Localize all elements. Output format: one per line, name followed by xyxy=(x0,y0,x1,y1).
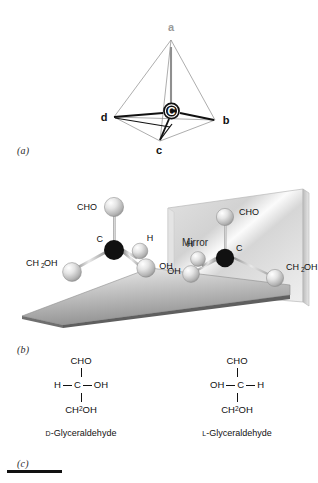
l-top-bond xyxy=(237,368,238,377)
sphere-cho xyxy=(104,197,123,216)
d-top-bond xyxy=(81,368,82,377)
fischer-l-glyceraldehyde: CHO OH C H CH2OH L-Glyceraldehyde xyxy=(181,354,293,438)
panel-a-tetrahedron: C a b c d (a) xyxy=(0,0,318,168)
l-bottom-tail: OH xyxy=(239,405,253,415)
bottom-rule xyxy=(7,470,62,473)
l-left-group: OH xyxy=(210,380,224,390)
mirror-sphere-carbon xyxy=(216,249,234,267)
chirality-figure: C a b c d (a) xyxy=(0,0,318,483)
d-center-atom: C xyxy=(74,380,81,390)
label-oh: OH xyxy=(159,261,173,271)
mirror-label-center: C xyxy=(236,243,243,253)
label-h: H xyxy=(147,233,154,243)
l-middle-row: OH C H xyxy=(181,378,293,392)
panel-label-c: (c) xyxy=(17,458,29,469)
d-bottom-main: CH xyxy=(65,405,79,415)
l-left-bond xyxy=(226,385,235,386)
l-bottom-main: CH xyxy=(221,405,235,415)
mirror-label-h: H xyxy=(187,239,194,249)
sphere-oh xyxy=(137,259,155,277)
mirror-label-cho: CHO xyxy=(239,207,259,217)
d-bottom-tail: OH xyxy=(83,405,97,415)
l-bottom-bond xyxy=(237,393,238,402)
vertex-label-c: c xyxy=(156,144,162,156)
l-center-atom: C xyxy=(237,380,244,390)
l-name: -Glyceraldehyde xyxy=(206,428,272,438)
fischer-d-glyceraldehyde: CHO H C OH CH2OH D-Glyceraldehyde xyxy=(25,354,137,438)
tetrahedron-diagram: C a b c d xyxy=(0,0,318,168)
d-name: -Glyceraldehyde xyxy=(51,428,117,438)
l-right-bond xyxy=(246,385,255,386)
bond-center-to-d xyxy=(114,113,163,117)
l-bottom-group: CH2OH xyxy=(181,403,293,416)
mirror-scene-diagram: Mirror CHO C H xyxy=(0,168,318,348)
sphere-carbon xyxy=(104,240,124,260)
d-bottom-bond xyxy=(81,393,82,402)
label-cho: CHO xyxy=(77,202,97,212)
sphere-ch2oh xyxy=(63,263,82,282)
vertex-label-a: a xyxy=(168,21,175,33)
svg-text:OH: OH xyxy=(304,262,318,272)
mirror-sphere-ch2oh xyxy=(266,269,283,286)
label-center: C xyxy=(97,234,104,244)
mirror-sphere-h xyxy=(191,252,206,267)
mirror-sphere-oh xyxy=(183,266,200,283)
central-carbon-label: C xyxy=(168,105,176,117)
vertex-label-d: d xyxy=(101,111,108,123)
panel-label-a: (a) xyxy=(17,145,29,156)
d-left-bond xyxy=(63,385,72,386)
d-right-group: OH xyxy=(94,380,108,390)
sphere-h xyxy=(132,243,148,259)
l-top-group: CHO xyxy=(181,354,293,367)
d-middle-row: H C OH xyxy=(25,378,137,392)
label-ch2oh: CH 2 OH xyxy=(26,258,58,269)
molecule-primary: CHO C CH 2 OH H OH xyxy=(26,197,173,281)
svg-text:CH: CH xyxy=(286,262,299,272)
panel-b-mirror-scene: Mirror CHO C H xyxy=(0,168,318,348)
d-top-group: CHO xyxy=(25,354,137,367)
svg-text:CH: CH xyxy=(26,258,39,268)
panel-c-fischer-projections: CHO H C OH CH2OH D-Glyceraldehyde xyxy=(0,348,318,483)
d-left-group: H xyxy=(54,380,61,390)
vertex-label-b: b xyxy=(223,114,230,126)
l-right-group: H xyxy=(257,380,264,390)
central-carbon: C xyxy=(163,103,180,120)
mirror-sphere-cho xyxy=(216,208,233,225)
d-right-bond xyxy=(83,385,92,386)
svg-text:OH: OH xyxy=(44,258,58,268)
l-glyceraldehyde-caption: L-Glyceraldehyde xyxy=(181,429,293,438)
inner-guides xyxy=(115,118,172,140)
d-glyceraldehyde-caption: D-Glyceraldehyde xyxy=(25,429,137,438)
d-bottom-group: CH2OH xyxy=(25,403,137,416)
